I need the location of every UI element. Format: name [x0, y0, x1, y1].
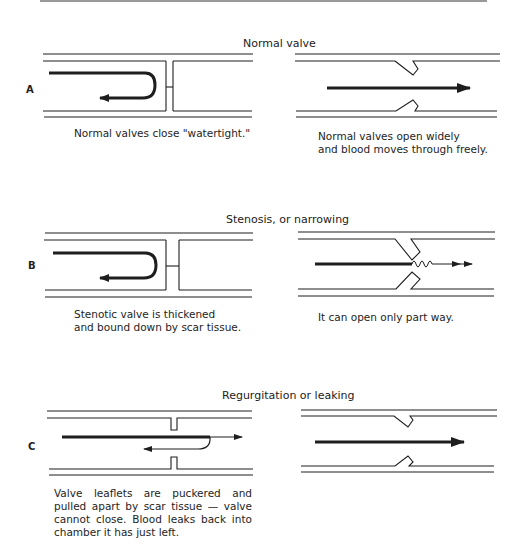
panel-b-title: Stenosis, or narrowing: [226, 213, 349, 226]
panel-c-left-caption: Valve leaflets are puckered and pulled a…: [54, 487, 252, 539]
panel-a-left-caption: Normal valves close "watertight.": [74, 127, 250, 140]
panel-c-leaking-closed: [47, 411, 253, 475]
panel-a-closed-valve: [43, 54, 253, 117]
panel-c-leaking-open: [301, 410, 497, 472]
panel-b-left-caption: Stenotic valve is thickened and bound do…: [74, 308, 241, 334]
panel-c-letter: C: [28, 441, 35, 452]
panel-c-title: Regurgitation or leaking: [222, 389, 355, 402]
valve-drawings: [0, 0, 516, 549]
panel-b-right-caption: It can open only part way.: [318, 311, 454, 324]
panel-b-stenotic-closed: [44, 233, 253, 297]
panel-a-open-valve: [295, 54, 500, 117]
panel-b-stenotic-open: [298, 232, 495, 296]
panel-a-right-caption: Normal valves open widely and blood move…: [318, 130, 488, 156]
panel-b-letter: B: [28, 260, 36, 271]
valve-diagram-figure: Normal valve A Normal valves close "wate…: [0, 0, 516, 549]
panel-a-title: Normal valve: [243, 37, 316, 50]
panel-a-letter: A: [26, 84, 34, 95]
